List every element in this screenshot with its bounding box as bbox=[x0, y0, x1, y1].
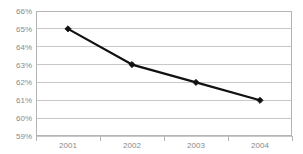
y-axis-tick-label: 59% bbox=[16, 132, 32, 141]
y-axis-tick-label: 66% bbox=[16, 7, 32, 16]
chart-background bbox=[0, 0, 303, 154]
x-axis-tick-label: 2003 bbox=[187, 141, 205, 150]
x-axis-tick-label: 2002 bbox=[123, 141, 141, 150]
y-axis-tick-label: 62% bbox=[16, 78, 32, 87]
x-axis-tick-label: 2001 bbox=[59, 141, 77, 150]
y-axis-tick-label: 63% bbox=[16, 61, 32, 70]
y-axis-tick-label: 64% bbox=[16, 43, 32, 52]
chart-canvas: 66%65%64%63%62%61%60%59% 200120022003200… bbox=[0, 0, 303, 154]
y-axis-tick-label: 61% bbox=[16, 96, 32, 105]
y-axis-tick-label: 60% bbox=[16, 114, 32, 123]
line-chart: 66%65%64%63%62%61%60%59% 200120022003200… bbox=[0, 0, 303, 154]
y-axis-tick-label: 65% bbox=[16, 25, 32, 34]
x-axis-tick-label: 2004 bbox=[251, 141, 269, 150]
